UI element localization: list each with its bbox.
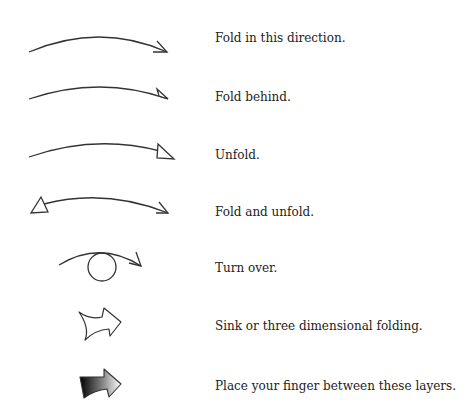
legend-label: Place your finger between these layers. <box>215 379 456 393</box>
sink-arrow-icon <box>0 300 200 350</box>
finger-arrow-icon <box>0 360 200 410</box>
mountain-fold-arrow-icon <box>0 72 200 122</box>
legend-label: Fold and unfold. <box>215 205 314 219</box>
legend-label: Turn over. <box>215 261 277 275</box>
unfold-arrow-icon <box>0 131 200 181</box>
legend-row-sink: Sink or three dimensional folding. <box>0 300 476 350</box>
legend-row-fold-in-this-direction: Fold in this direction. <box>0 12 476 62</box>
legend-label: Fold behind. <box>215 90 291 104</box>
legend-row-place-finger: Place your finger between these layers. <box>0 360 476 410</box>
legend-row-turn-over: Turn over. <box>0 240 476 290</box>
legend-label: Sink or three dimensional folding. <box>215 319 423 333</box>
legend-row-fold-behind: Fold behind. <box>0 72 476 122</box>
legend-label: Unfold. <box>215 148 260 162</box>
legend-row-unfold: Unfold. <box>0 131 476 181</box>
turn-over-arrow-icon <box>0 240 200 290</box>
fold-unfold-arrow-icon <box>0 188 200 238</box>
legend-label: Fold in this direction. <box>215 31 345 45</box>
legend-row-fold-and-unfold: Fold and unfold. <box>0 188 476 238</box>
valley-fold-arrow-icon <box>0 12 200 62</box>
